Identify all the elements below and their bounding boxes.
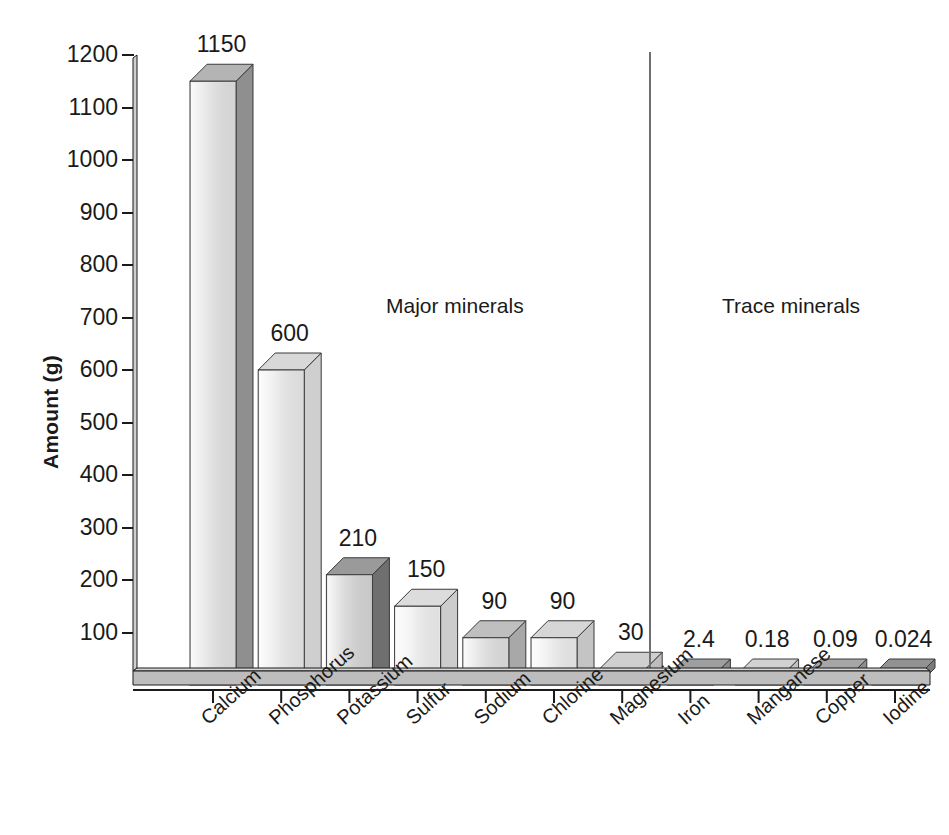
mineral-composition-bar-chart: Amount (g) 12001100100090080070060050040… [0,0,949,835]
bar-value-label: 90 [503,590,623,613]
group-annotation-label: Major minerals [386,295,524,316]
bar-value-label: 0.024 [844,628,949,651]
bar-phosphorus [258,353,321,685]
group-annotation-label: Trace minerals [722,295,860,316]
bar-value-label: 1150 [162,33,282,56]
bar-value-label: 150 [366,558,486,581]
bar-value-label: 210 [298,527,418,550]
bar-value-label: 600 [230,322,350,345]
bar-calcium [190,64,253,685]
